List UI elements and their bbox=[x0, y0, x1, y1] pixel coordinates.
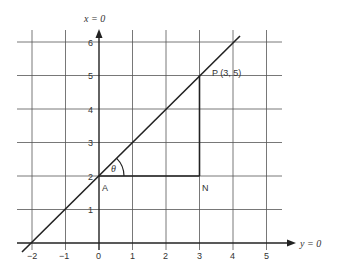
svg-text:5: 5 bbox=[88, 71, 93, 81]
svg-text:3: 3 bbox=[197, 251, 202, 261]
x-axis-arrow-icon bbox=[287, 240, 296, 247]
svg-text:1: 1 bbox=[130, 251, 135, 261]
svg-text:1: 1 bbox=[88, 205, 93, 215]
svg-text:6: 6 bbox=[88, 38, 93, 48]
horizontal-axis-label: y = 0 bbox=[299, 238, 321, 249]
svg-text:3: 3 bbox=[88, 138, 93, 148]
point-P-label: P (3, 5) bbox=[212, 68, 241, 78]
y-tick-labels: 1 2 3 4 5 6 bbox=[88, 38, 93, 215]
axes bbox=[17, 36, 288, 250]
svg-text:0: 0 bbox=[96, 251, 101, 261]
svg-text:4: 4 bbox=[230, 251, 235, 261]
angle-theta-label: θ bbox=[111, 163, 116, 174]
svg-text:−1: −1 bbox=[59, 251, 69, 261]
svg-text:2: 2 bbox=[163, 251, 168, 261]
svg-text:5: 5 bbox=[264, 251, 269, 261]
svg-text:−2: −2 bbox=[27, 251, 37, 261]
angle-arc-icon bbox=[117, 158, 124, 176]
svg-text:4: 4 bbox=[88, 105, 93, 115]
coordinate-diagram: x = 0 y = 0 −2 −1 0 1 2 3 4 5 1 2 3 4 5 … bbox=[0, 0, 341, 278]
y-axis-arrow-icon bbox=[96, 29, 103, 38]
x-tick-labels: −2 −1 0 1 2 3 4 5 bbox=[27, 251, 269, 261]
point-N-label: N bbox=[202, 183, 209, 193]
vertical-axis-label: x = 0 bbox=[83, 13, 105, 24]
svg-text:2: 2 bbox=[88, 172, 93, 182]
point-A-label: A bbox=[102, 183, 108, 193]
line-through-A-P bbox=[22, 36, 240, 252]
